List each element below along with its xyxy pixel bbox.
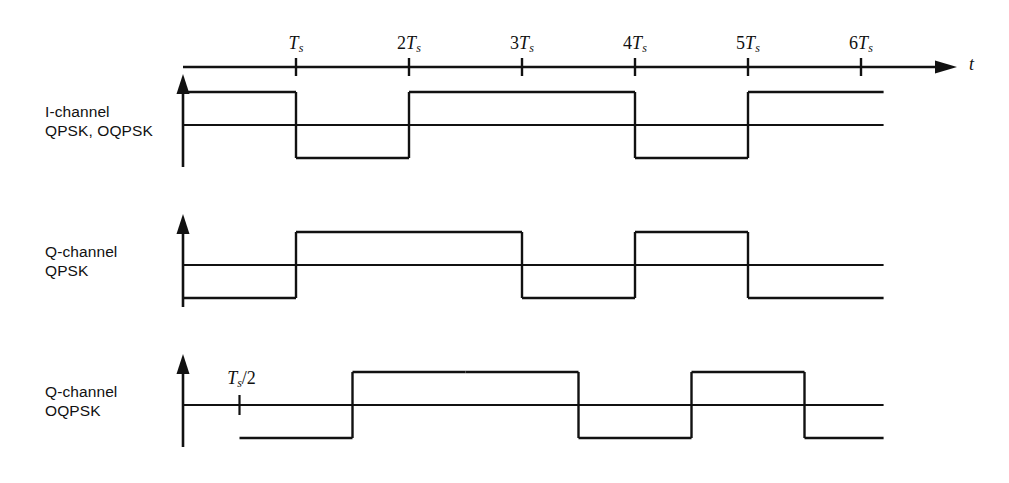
- tick-label-Ts: Ts: [289, 33, 304, 56]
- tick-label-3Ts: 3Ts: [510, 33, 534, 56]
- vertical-axis-arrowhead-1: [177, 214, 190, 234]
- channel-label-q-channel-oqpsk: Q-channelOQPSK: [45, 382, 117, 420]
- channel-label-line1: Q-channel: [45, 382, 117, 401]
- channel-label-i-channel: I-channelQPSK, OQPSK: [45, 102, 153, 140]
- waveform-svg: [0, 0, 1009, 483]
- waveform-group-q-channel-qpsk: [177, 214, 884, 307]
- channel-label-q-channel-qpsk: Q-channelQPSK: [45, 242, 117, 280]
- time-axis-label: t: [969, 54, 974, 75]
- tick-label-5Ts: 5Ts: [736, 33, 760, 56]
- tick-label-4Ts: 4Ts: [623, 33, 647, 56]
- channel-label-line2: QPSK, OQPSK: [45, 121, 153, 140]
- vertical-axis-arrowhead-2: [177, 354, 190, 374]
- channel-label-line1: Q-channel: [45, 242, 117, 261]
- waveform-group-q-channel-oqpsk: [177, 354, 884, 447]
- channel-label-line2: QPSK: [45, 261, 117, 280]
- tick-label-2Ts: 2Ts: [397, 33, 421, 56]
- channel-label-line1: I-channel: [45, 102, 153, 121]
- half-symbol-offset-label: Ts/2: [227, 368, 256, 391]
- channel-label-line2: OQPSK: [45, 401, 117, 420]
- tick-label-6Ts: 6Ts: [849, 33, 873, 56]
- waveform-figure: I-channelQPSK, OQPSKQ-channelQPSKQ-chann…: [0, 0, 1009, 483]
- waveform-group-i-channel: [177, 58, 958, 167]
- time-axis-arrowhead: [935, 61, 957, 74]
